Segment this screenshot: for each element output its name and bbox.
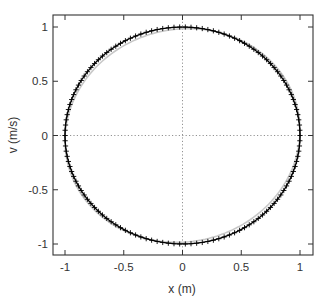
plus-marker bbox=[133, 33, 138, 38]
y-tick-label: 0 bbox=[42, 130, 48, 142]
plus-marker bbox=[227, 232, 232, 237]
plus-marker bbox=[144, 236, 149, 241]
plus-marker bbox=[297, 122, 302, 127]
axes-frame bbox=[53, 15, 313, 255]
zero-lines bbox=[53, 15, 313, 255]
plus-marker bbox=[144, 30, 149, 35]
plus-marker bbox=[216, 236, 221, 241]
plus-marker bbox=[149, 238, 154, 243]
plus-marker bbox=[222, 234, 227, 239]
x-tick-label: -0.5 bbox=[114, 261, 134, 273]
plus-marker bbox=[205, 27, 210, 32]
plus-marker bbox=[62, 133, 67, 138]
plus-marker bbox=[63, 128, 68, 133]
phase-portrait-chart: -1-0.500.51-1-0.500.51 x (m) v (m/s) bbox=[0, 0, 328, 300]
plus-marker bbox=[237, 228, 242, 233]
plus-marker bbox=[63, 138, 68, 143]
plus-marker bbox=[296, 117, 301, 122]
plus-marker bbox=[222, 31, 227, 36]
plot-frame bbox=[53, 15, 313, 255]
plus-marker bbox=[216, 30, 221, 35]
plus-marker bbox=[128, 36, 133, 41]
plus-marker bbox=[138, 234, 143, 239]
x-tick-label: -1 bbox=[60, 261, 70, 273]
plus-marker bbox=[297, 128, 302, 133]
plus-marker bbox=[211, 28, 216, 33]
x-axis-label: x (m) bbox=[168, 282, 195, 296]
x-tick-label: 1 bbox=[297, 261, 303, 273]
y-tick-label: -0.5 bbox=[28, 184, 48, 196]
plus-marker bbox=[232, 230, 237, 235]
x-tick-label: 0 bbox=[179, 261, 185, 273]
plus-marker bbox=[138, 31, 143, 36]
y-axis-label: v (m/s) bbox=[6, 117, 20, 154]
y-tick-label: 0.5 bbox=[32, 75, 48, 87]
y-tick-label: 1 bbox=[42, 21, 48, 33]
axis-ticks: -1-0.500.51-1-0.500.51 bbox=[28, 15, 313, 273]
plus-marker bbox=[64, 149, 69, 154]
plus-marker bbox=[63, 143, 68, 148]
plus-marker bbox=[155, 239, 160, 244]
y-tick-label: -1 bbox=[38, 238, 48, 250]
plus-marker bbox=[123, 38, 128, 43]
x-tick-label: 0.5 bbox=[233, 261, 249, 273]
plus-marker bbox=[297, 133, 302, 138]
plus-marker bbox=[297, 138, 302, 143]
